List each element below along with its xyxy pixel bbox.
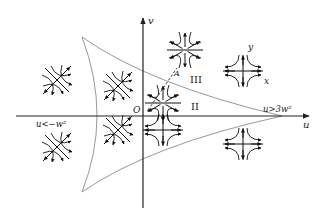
- bifurcation-curve-left: [82, 37, 97, 192]
- region-label-3: III: [190, 74, 202, 85]
- point-a-label: A: [173, 69, 180, 78]
- u-axis-label: u: [303, 119, 309, 130]
- phase-portrait-left-outer: [42, 65, 72, 95]
- phase-portrait-right-inset: [223, 55, 263, 87]
- origin-label: O: [133, 105, 141, 115]
- phase-portrait-region-2-lower: [143, 114, 183, 146]
- right-condition-label: u>3w²: [263, 104, 292, 114]
- phase-portrait-left-inner-upper: [103, 71, 133, 101]
- phase-portrait-region-3-top: [167, 32, 203, 68]
- bifurcation-diagram: v u O II III u<−w² u>3w² A y x: [0, 0, 325, 219]
- inset-y-label: y: [247, 42, 254, 52]
- phase-portrait-right-lower: [223, 128, 263, 160]
- left-condition-label: u<−w²: [36, 119, 67, 129]
- inset-x-label: x: [264, 76, 269, 86]
- phase-portrait-left-inner-lower: [103, 115, 133, 145]
- v-axis-label: v: [148, 15, 154, 26]
- phase-portrait-left-outer-lower: [42, 132, 72, 162]
- bifurcation-curve-lower: [82, 116, 282, 192]
- region-label-2: II: [191, 101, 199, 112]
